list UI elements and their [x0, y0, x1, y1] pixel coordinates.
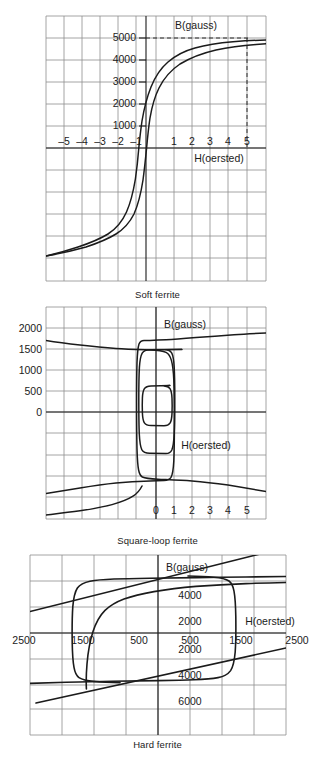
- hard-ferrite-svg: 4000 2000 2000 4000 6000 2500 1500 500 5…: [0, 551, 315, 756]
- b-axis-title: B(gauss): [175, 19, 217, 31]
- ytick-2000: 2000: [113, 97, 137, 109]
- ytick-1500: 1500: [19, 343, 43, 355]
- xtick-neg500: 500: [130, 634, 148, 646]
- ytick-5000: 5000: [113, 31, 137, 43]
- xtick-pos1500: 1500: [229, 634, 253, 646]
- h-axis-title: H(oersted): [194, 152, 244, 164]
- h-axis-title: H(oersted): [245, 615, 295, 627]
- figure-page: 5000 4000 3000 2000 1000 –5 –4 –3 –2 –1 …: [0, 0, 315, 763]
- caption-soft-ferrite: Soft ferrite: [0, 289, 315, 300]
- xtick-neg1: –1: [130, 135, 142, 147]
- xtick-4: 4: [225, 504, 231, 516]
- xtick-neg2500: 2500: [12, 634, 36, 646]
- xtick-neg1500: 1500: [71, 634, 95, 646]
- ytick-1000: 1000: [113, 119, 137, 131]
- soft-ferrite-svg: 5000 4000 3000 2000 1000 –5 –4 –3 –2 –1 …: [0, 0, 315, 288]
- xtick-3: 3: [207, 135, 213, 147]
- xtick-pos2500: 2500: [285, 634, 309, 646]
- chart-soft-ferrite: 5000 4000 3000 2000 1000 –5 –4 –3 –2 –1 …: [0, 0, 315, 288]
- b-axis-title: B(gauss): [166, 561, 208, 573]
- xtick-1: 1: [171, 135, 177, 147]
- h-axis-title: H(oersted): [181, 439, 231, 451]
- ytick-3000: 3000: [113, 75, 137, 87]
- ytick-2000-pos: 2000: [178, 615, 202, 627]
- b-axis-title: B(gauss): [164, 318, 206, 330]
- xtick-neg5: –5: [58, 135, 70, 147]
- xtick-5: 5: [244, 504, 250, 516]
- ytick-4000: 4000: [113, 53, 137, 65]
- xtick-neg2: –2: [112, 135, 124, 147]
- ytick-1000: 1000: [19, 364, 43, 376]
- xtick-4: 4: [225, 135, 231, 147]
- caption-square-loop-ferrite: Square-loop ferrite: [0, 535, 315, 546]
- xtick-2: 2: [189, 504, 195, 516]
- xtick-pos500: 500: [181, 634, 199, 646]
- caption-hard-ferrite: Hard ferrite: [0, 739, 315, 750]
- ytick-6000-neg: 6000: [178, 695, 202, 707]
- xtick-neg4: –4: [76, 135, 88, 147]
- ytick-0: 0: [36, 406, 42, 418]
- ytick-4000-pos: 4000: [178, 589, 202, 601]
- xtick-neg3: –3: [94, 135, 106, 147]
- square-loop-ferrite-svg: 2000 1500 1000 500 0 0 1 2 3 4 5 B(gauss…: [0, 303, 315, 535]
- xtick-1: 1: [171, 504, 177, 516]
- ytick-4000-neg: 4000: [178, 669, 202, 681]
- ytick-500: 500: [24, 385, 42, 397]
- xtick-2: 2: [189, 135, 195, 147]
- chart-hard-ferrite: 4000 2000 2000 4000 6000 2500 1500 500 5…: [0, 551, 315, 756]
- xtick-3: 3: [207, 504, 213, 516]
- xtick-5: 5: [244, 135, 250, 147]
- xtick-0: 0: [153, 504, 159, 516]
- ytick-2000: 2000: [19, 322, 43, 334]
- chart-square-loop-ferrite: 2000 1500 1000 500 0 0 1 2 3 4 5 B(gauss…: [0, 303, 315, 535]
